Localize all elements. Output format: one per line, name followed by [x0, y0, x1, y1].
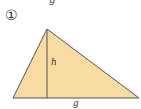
- triangle-diagram: [0, 0, 141, 109]
- height-label: h: [51, 58, 57, 67]
- triangle-shape: [13, 29, 139, 98]
- base-label: g: [73, 99, 79, 108]
